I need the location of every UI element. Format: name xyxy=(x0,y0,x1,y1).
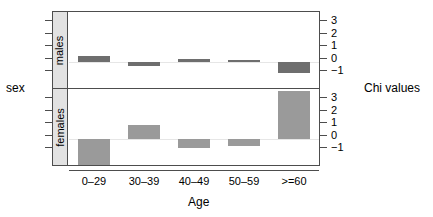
ytick-label-f-0: 3 xyxy=(331,92,337,103)
bar-females-3 xyxy=(228,139,260,146)
ytick-label-m-3: 0 xyxy=(331,53,337,64)
xtick-label-4: >=60 xyxy=(254,176,334,187)
strip-label-females: females xyxy=(55,108,66,147)
left-tick-m-3 xyxy=(45,58,52,59)
bar-males-0 xyxy=(78,56,110,62)
bar-females-2 xyxy=(178,139,210,147)
left-tick-f-3 xyxy=(45,135,52,136)
bar-males-3 xyxy=(228,60,260,62)
ytick-label-m-1: 2 xyxy=(331,28,337,39)
strip-males: males xyxy=(52,11,68,89)
right-tick-f-3 xyxy=(320,135,327,136)
left-tick-m-0 xyxy=(45,20,52,21)
strip-label-males: males xyxy=(55,35,66,64)
strip-females: females xyxy=(52,88,68,166)
right-tick-f-1 xyxy=(320,110,327,111)
ytick-label-f-3: 0 xyxy=(331,130,337,141)
right-tick-f-2 xyxy=(320,122,327,123)
plot-area-males xyxy=(69,12,319,88)
bar-males-4 xyxy=(278,62,310,73)
plot-area-females xyxy=(69,89,319,165)
left-tick-m-4 xyxy=(45,70,52,71)
chart-canvas: sex Chi values Age males females 3 2 1 0… xyxy=(0,0,433,217)
left-tick-f-4 xyxy=(45,147,52,148)
left-axis-title: sex xyxy=(6,82,25,94)
right-tick-m-1 xyxy=(320,33,327,34)
left-tick-m-2 xyxy=(45,45,52,46)
ytick-label-f-1: 2 xyxy=(331,105,337,116)
ytick-label-m-2: 1 xyxy=(331,40,337,51)
bar-females-0 xyxy=(78,139,110,165)
ytick-label-f-2: 1 xyxy=(331,117,337,128)
right-tick-m-4 xyxy=(320,70,327,71)
ytick-label-f-4: −1 xyxy=(331,142,344,153)
right-tick-m-3 xyxy=(320,58,327,59)
right-tick-f-0 xyxy=(320,97,327,98)
bar-females-1 xyxy=(128,125,160,140)
ytick-label-m-0: 3 xyxy=(331,15,337,26)
right-tick-m-2 xyxy=(320,45,327,46)
bottom-axis-title: Age xyxy=(188,196,209,208)
left-tick-f-2 xyxy=(45,122,52,123)
left-tick-f-1 xyxy=(45,110,52,111)
bar-males-1 xyxy=(128,62,160,66)
right-axis-title: Chi values xyxy=(364,82,420,94)
right-tick-m-0 xyxy=(320,20,327,21)
bar-females-4 xyxy=(278,91,310,139)
bar-males-2 xyxy=(178,59,210,62)
x-axis-baseline xyxy=(69,170,319,171)
left-tick-m-1 xyxy=(45,33,52,34)
ytick-label-m-4: −1 xyxy=(331,65,344,76)
left-tick-f-0 xyxy=(45,97,52,98)
right-tick-f-4 xyxy=(320,147,327,148)
